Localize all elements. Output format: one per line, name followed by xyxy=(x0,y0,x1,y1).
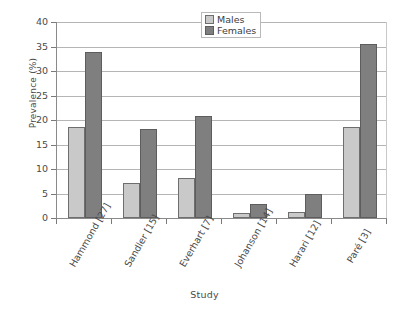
bar-females-4 xyxy=(305,194,322,219)
legend-label-females: Females xyxy=(217,26,256,36)
gridline xyxy=(57,71,387,72)
x-axis-tick xyxy=(386,219,387,224)
y-axis-label: 35 xyxy=(8,42,48,52)
bar-males-1 xyxy=(123,183,140,218)
y-axis-label: 0 xyxy=(8,213,48,223)
legend-item-males: Males xyxy=(205,15,256,25)
bar-males-5 xyxy=(343,127,360,218)
chart-legend: Males Females xyxy=(201,12,261,38)
plot-area xyxy=(56,22,387,219)
y-axis-label: 10 xyxy=(8,164,48,174)
x-axis-label-4: Harari [12] xyxy=(287,227,318,269)
gridline xyxy=(57,120,387,121)
y-axis-label: 5 xyxy=(8,189,48,199)
x-axis-title: Study xyxy=(0,289,409,300)
bar-males-2 xyxy=(178,178,195,218)
x-axis-label-0: Hammond [27] xyxy=(67,227,98,269)
legend-item-females: Females xyxy=(205,26,256,36)
x-axis-label-2: Everhart [7] xyxy=(177,227,208,269)
bar-males-0 xyxy=(68,127,85,218)
males-swatch-icon xyxy=(205,15,214,24)
x-axis-tick xyxy=(331,219,332,224)
x-axis-tick xyxy=(166,219,167,224)
y-axis-label: 15 xyxy=(8,140,48,150)
legend-label-males: Males xyxy=(217,15,244,25)
x-axis-tick xyxy=(276,219,277,224)
x-axis-label-5: Paré [3] xyxy=(342,227,373,269)
bar-females-1 xyxy=(140,129,157,218)
x-axis-tick xyxy=(111,219,112,224)
bar-chart: Prevalence (%) 4035302520151050 Hammond … xyxy=(0,0,409,309)
plot-right-border xyxy=(386,22,387,218)
y-axis-label: 30 xyxy=(8,66,48,76)
females-swatch-icon xyxy=(205,26,214,35)
gridline xyxy=(57,145,387,146)
y-axis-label: 20 xyxy=(8,115,48,125)
x-axis-label-1: Sandler [15] xyxy=(122,227,153,269)
x-axis-tick xyxy=(221,219,222,224)
bar-females-5 xyxy=(360,44,377,218)
x-axis-tick xyxy=(56,219,57,224)
bar-males-3 xyxy=(233,213,250,218)
gridline xyxy=(57,96,387,97)
gridline xyxy=(57,169,387,170)
bar-males-4 xyxy=(288,212,305,218)
gridline xyxy=(57,194,387,195)
y-axis-label: 40 xyxy=(8,17,48,27)
y-axis-label: 25 xyxy=(8,91,48,101)
x-axis-label-3: Johanson [14] xyxy=(232,227,263,269)
bar-females-2 xyxy=(195,116,212,218)
bar-females-0 xyxy=(85,52,102,218)
gridline xyxy=(57,47,387,48)
